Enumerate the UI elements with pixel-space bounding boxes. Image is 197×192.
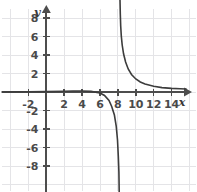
x-tick-label: 14 [164,98,180,111]
x-tick-label: 4 [78,98,86,111]
y-tick-label: -8 [26,160,38,173]
y-tick-label: 2 [31,68,39,81]
x-axis-label: x [178,96,186,109]
x-tick-label: 12 [146,98,161,111]
graph-figure: -2 2 4 6 8 10 12 14 8 6 4 2 -2 -4 -6 -8 … [0,0,197,192]
coordinate-plane-svg: -2 2 4 6 8 10 12 14 8 6 4 2 -2 -4 -6 -8 … [0,0,197,192]
x-tick-label: 8 [114,98,122,111]
x-tick-label: 2 [60,98,68,111]
x-tick-label: 6 [96,98,104,111]
y-tick-label: 6 [31,31,39,44]
y-tick-label: -2 [26,105,38,118]
y-tick-label: 4 [31,49,39,62]
y-tick-label: -4 [26,123,39,136]
x-tick-label: 10 [128,98,144,111]
y-tick-label: -6 [26,142,39,155]
